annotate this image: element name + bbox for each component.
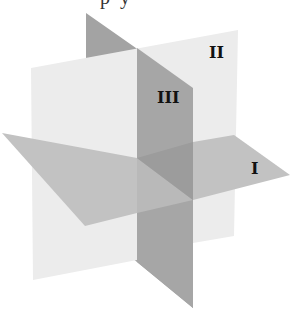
plane-label-III: III bbox=[157, 90, 179, 106]
planes-figure bbox=[0, 0, 291, 311]
plane-label-I: I bbox=[251, 161, 258, 177]
plane-label-II: II bbox=[209, 45, 224, 61]
three-planes-diagram: p y II III I bbox=[0, 0, 291, 311]
plane-I-right bbox=[193, 135, 290, 200]
